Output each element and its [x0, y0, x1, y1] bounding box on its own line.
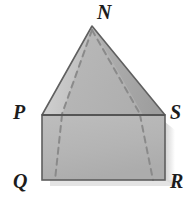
vertex-label-N: N — [97, 2, 111, 22]
drop-shadow-bottom — [50, 180, 172, 186]
vertex-label-Q: Q — [13, 171, 27, 191]
vertex-label-P: P — [13, 102, 25, 122]
geometry-figure: N P S Q R — [0, 0, 193, 199]
solid-shape-drawing — [0, 0, 193, 199]
vertex-label-R: R — [170, 171, 183, 191]
vertex-label-S: S — [170, 102, 181, 122]
